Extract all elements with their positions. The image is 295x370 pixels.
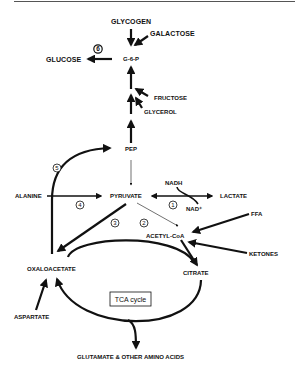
label-citrate: CITRATE bbox=[183, 270, 209, 276]
step-2-badge: 2 bbox=[140, 219, 148, 227]
arrow-tca-to-glutamate bbox=[128, 320, 136, 348]
label-oxaloacetate: OXALOACETATE bbox=[27, 266, 76, 272]
label-ketones: KETONES bbox=[249, 251, 278, 257]
label-g6p: G-6-P bbox=[123, 56, 139, 62]
step-1-badge: 1 bbox=[169, 201, 177, 209]
arrow-glycerol-in bbox=[136, 98, 142, 108]
label-nadh: NADH bbox=[165, 180, 182, 186]
label-aspartate: ASPARTATE bbox=[14, 314, 49, 320]
label-glycerol: GLYCEROL bbox=[144, 109, 177, 115]
label-lactate: LACTATE bbox=[220, 193, 247, 199]
label-acetyl-coa: ACETYL-CoA bbox=[146, 233, 185, 239]
arrow-aspartate-to-oxaloacetate bbox=[36, 280, 46, 310]
label-pyruvate: PYRUVATE bbox=[110, 193, 142, 199]
label-fructose: FRUCTOSE bbox=[154, 95, 187, 101]
tca-arc-top bbox=[68, 240, 194, 262]
label-ffa: FFA bbox=[251, 211, 263, 217]
step-6-badge: 6 bbox=[94, 45, 102, 53]
arrow-galactose-to-g6p bbox=[135, 36, 148, 45]
label-galactose: GALACTOSE bbox=[150, 30, 195, 37]
arrow-ketones-to-acetylcoa bbox=[189, 242, 247, 253]
svg-text:6: 6 bbox=[96, 45, 100, 52]
label-glucose: GLUCOSE bbox=[46, 56, 82, 63]
arrow-fructose-in bbox=[136, 89, 148, 96]
step-5-badge: 5 bbox=[53, 164, 61, 172]
label-glycogen: GLYCOGEN bbox=[111, 18, 151, 25]
metabolic-pathway-diagram: TCA cycle GLYCOGEN GALACTOSE G-6-P GLUCO… bbox=[0, 0, 295, 370]
label-glutamate: GLUTAMATE & OTHER AMINO ACIDS bbox=[77, 354, 184, 360]
arrow-ffa-to-acetylcoa bbox=[193, 214, 249, 232]
tca-cycle-label: TCA cycle bbox=[115, 296, 147, 304]
label-nad: NAD⁺ bbox=[186, 206, 202, 212]
label-alanine: ALANINE bbox=[15, 193, 42, 199]
label-pep: PEP bbox=[125, 146, 137, 152]
step-4-badge: 4 bbox=[76, 201, 84, 209]
step-3-badge: 3 bbox=[111, 219, 119, 227]
